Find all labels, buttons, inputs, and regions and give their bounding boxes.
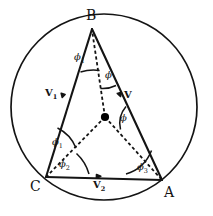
- angle-label-phi-lower-right: ϕ: [120, 113, 127, 126]
- angle-label-phi-2-at-c: ϕ2: [59, 159, 70, 172]
- angle-label-phi-upper-right: ϕ: [105, 70, 112, 83]
- center-dot: [101, 113, 109, 121]
- vertex-label-c: C: [30, 179, 41, 193]
- arc-phi1-at-b: [81, 70, 100, 72]
- angle-label-phi-1-at-b: ϕ1: [74, 52, 85, 65]
- vector-label-v1: V1: [45, 88, 57, 101]
- arrowhead-v1: [61, 93, 65, 97]
- arc-phi2-at-c: [77, 154, 90, 175]
- arrowhead-v: [117, 92, 121, 96]
- vertex-label-b: B: [86, 8, 96, 22]
- vector-label-v: V: [124, 90, 132, 103]
- vector-label-v2: V2: [93, 180, 105, 193]
- geometry-figure: B C A ϕ1 ϕ ϕ ϕ1 ϕ2 ϕ3 V1 V V2: [0, 0, 213, 216]
- side-cb: [46, 29, 92, 177]
- angle-label-phi-1-at-c: ϕ1: [52, 137, 63, 150]
- circumscribed-circle: [11, 14, 197, 200]
- vertex-label-a: A: [164, 185, 174, 199]
- angle-label-phi-3-at-a: ϕ3: [137, 162, 148, 175]
- arc-phi-upper-right: [101, 86, 117, 89]
